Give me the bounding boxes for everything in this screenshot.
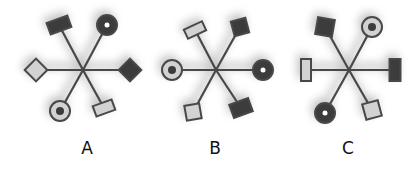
- rect-dark-icon: [390, 59, 401, 81]
- inner-dot-icon: [168, 66, 176, 74]
- square-dark-icon: [231, 18, 249, 36]
- inner-dot-icon: [323, 111, 328, 116]
- square-light-icon: [362, 100, 382, 120]
- inner-dot-icon: [368, 23, 376, 31]
- rect-light-icon: [301, 59, 311, 81]
- figure-a: [22, 11, 142, 121]
- figure-label-c: C: [333, 138, 363, 158]
- figure-c: [298, 13, 401, 123]
- inner-dot-icon: [261, 68, 266, 73]
- inner-dot-icon: [56, 107, 64, 115]
- figures-layer: [22, 11, 401, 123]
- square-light-icon: [184, 103, 201, 120]
- figure-label-b: B: [200, 138, 230, 158]
- figure-b: [159, 14, 273, 121]
- square-dark-icon: [315, 17, 335, 37]
- figure-label-a: A: [72, 138, 102, 158]
- inner-dot-icon: [105, 23, 110, 28]
